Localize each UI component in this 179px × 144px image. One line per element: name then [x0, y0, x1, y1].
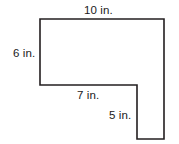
- geometry-figure-container: 10 in. 6 in. 7 in. 5 in.: [0, 0, 179, 144]
- dimension-label-left: 6 in.: [13, 47, 35, 59]
- composite-l-shape-outline: [40, 19, 164, 139]
- dimension-label-bottom: 7 in.: [77, 89, 99, 101]
- dimension-label-top: 10 in.: [84, 4, 113, 16]
- composite-shape-svg: [0, 0, 179, 144]
- dimension-label-right: 5 in.: [109, 109, 131, 121]
